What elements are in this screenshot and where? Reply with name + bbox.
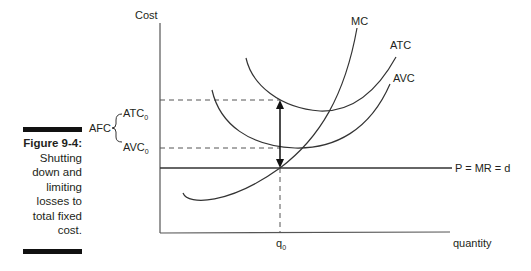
avc-curve	[212, 84, 390, 148]
avc-label: AVC	[393, 72, 415, 84]
x-axis-label: quantity	[453, 237, 492, 249]
x-axis	[160, 232, 450, 233]
afc-brace	[112, 114, 122, 142]
y-axis-label: Cost	[135, 9, 158, 21]
q0-label: q0	[276, 237, 286, 251]
mc-curve	[183, 28, 357, 200]
atc-label: ATC	[390, 39, 411, 51]
arrow-down-icon	[276, 159, 284, 168]
atc0-label: ATC0	[123, 107, 148, 121]
afc-label: AFC	[89, 122, 111, 134]
mc-label: MC	[351, 15, 368, 27]
price-line-label: P = MR = d	[455, 162, 510, 174]
avc0-label: AVC0	[123, 141, 149, 155]
atc-curve	[246, 57, 396, 111]
cost-curves-diagram: Cost quantity P = MR = d MC ATC AVC q0 A…	[0, 0, 531, 271]
